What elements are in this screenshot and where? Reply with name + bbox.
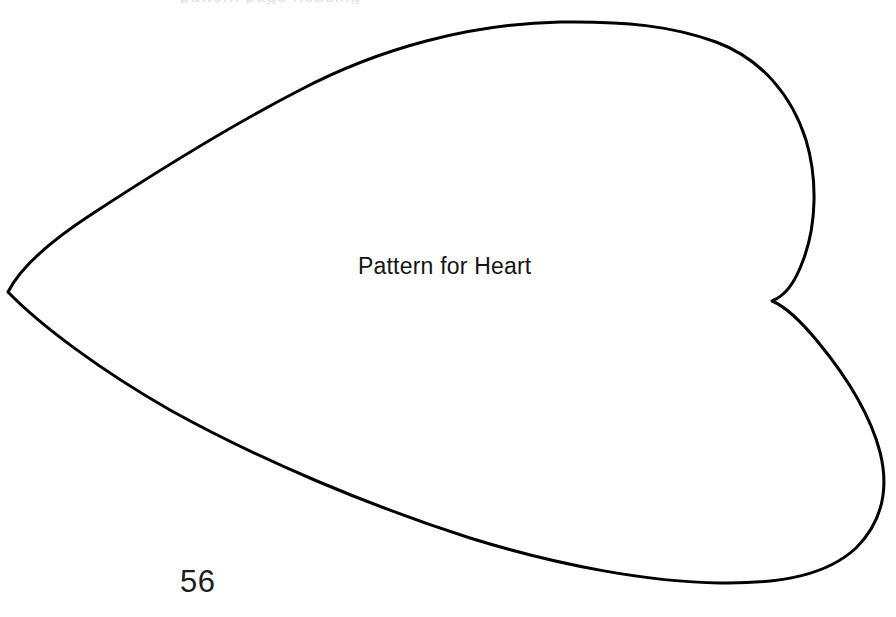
pattern-label: Pattern for Heart bbox=[358, 255, 531, 278]
heart-outline-path bbox=[8, 22, 884, 583]
heart-pattern-outline bbox=[0, 0, 896, 617]
page-number: 56 bbox=[180, 566, 215, 597]
scanned-page: pattern page heading Pattern for Heart 5… bbox=[0, 0, 896, 617]
